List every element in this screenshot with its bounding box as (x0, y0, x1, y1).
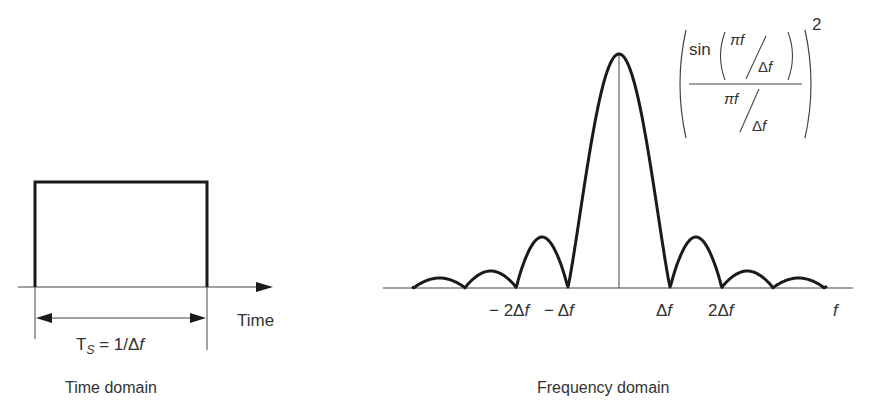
right-paren-icon (805, 30, 811, 138)
dimension-arrow-left-icon (36, 313, 52, 323)
left-paren-icon (680, 30, 686, 138)
exponent-2: 2 (812, 16, 821, 33)
delta-f-numerator: Δf (758, 59, 772, 74)
time-axis-label: Time (237, 312, 274, 329)
ts-symbol: T (76, 335, 86, 354)
frequency-axis-label: f (833, 302, 838, 319)
time-domain-caption: Time domain (65, 380, 157, 396)
ts-f: f (139, 335, 144, 354)
tick-label-minus-2df: − 2Δf (489, 302, 529, 319)
inner-right-paren-icon (788, 32, 793, 80)
tick-label-2df: 2Δf (708, 302, 734, 319)
dimension-arrow-right-icon (190, 313, 206, 323)
time-domain-plot (18, 182, 273, 350)
pi-f-denominator: πf (724, 91, 738, 106)
delta-f-denominator: Δf (752, 118, 766, 133)
sinc-formula: sin πf Δf πf Δf 2 (676, 24, 816, 142)
rectangular-pulse (35, 182, 207, 287)
pi-f-numerator: πf (730, 32, 744, 47)
tick-label-minus-df: − Δf (544, 302, 574, 319)
frequency-domain-caption: Frequency domain (537, 380, 670, 396)
tick-label-df: Δf (656, 302, 672, 319)
inner-left-paren-icon (721, 32, 726, 80)
time-axis-arrow-icon (256, 282, 273, 292)
sin-text: sin (689, 41, 711, 58)
pulse-width-label: TS = 1/Δf (76, 336, 144, 356)
ts-equals: = 1/Δ (94, 335, 139, 354)
